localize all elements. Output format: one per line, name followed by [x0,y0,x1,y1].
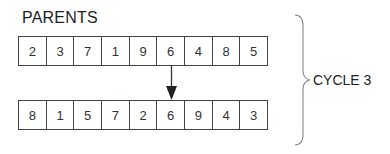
curly-brace-icon [295,15,310,145]
cycle-label: CYCLE 3 [313,72,371,88]
down-arrow-icon [166,66,177,100]
